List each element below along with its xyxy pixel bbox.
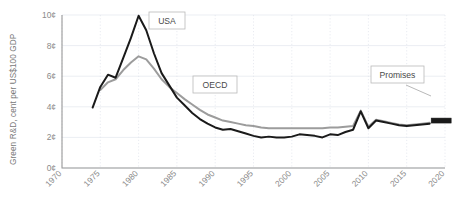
annotation-usa: USA <box>149 12 185 29</box>
xtick-label-2020: 2020 <box>426 168 446 188</box>
ytick-label-2: 2¢ <box>47 132 57 142</box>
xtick-label-2005: 2005 <box>311 168 331 188</box>
annotation-promises-leader <box>406 85 431 96</box>
xtick-label-1980: 1980 <box>120 168 140 188</box>
xtick-label-2000: 2000 <box>273 168 293 188</box>
xtick-label-1975: 1975 <box>81 168 101 188</box>
annotation-promises-label: Promises <box>380 70 416 80</box>
x-axis-tick-labels: 1970 1975 1980 1985 1990 1995 2000 2005 … <box>43 168 446 188</box>
chart-container: 0¢ 2¢ 4¢ 6¢ 8¢ 10¢ Green R&D, cent per U… <box>0 0 458 210</box>
ytick-label-6: 6¢ <box>47 71 57 81</box>
green-rd-line-chart: 0¢ 2¢ 4¢ 6¢ 8¢ 10¢ Green R&D, cent per U… <box>0 0 458 210</box>
ytick-label-4: 4¢ <box>47 102 57 112</box>
xtick-label-1990: 1990 <box>196 168 216 188</box>
annotation-oecd: OECD <box>193 76 237 93</box>
annotation-oecd-label: OECD <box>203 80 228 90</box>
y-axis-title: Green R&D, cent per US$100 GDP <box>9 33 18 165</box>
xtick-label-1985: 1985 <box>158 168 178 188</box>
promises-marker <box>431 118 451 123</box>
xtick-label-2010: 2010 <box>350 168 370 188</box>
xtick-label-1995: 1995 <box>235 168 255 188</box>
ytick-label-10: 10¢ <box>42 10 56 20</box>
grid-layer <box>62 15 445 168</box>
ytick-label-8: 8¢ <box>47 41 57 51</box>
y-axis-tick-labels: 0¢ 2¢ 4¢ 6¢ 8¢ 10¢ <box>42 10 56 173</box>
annotation-usa-label: USA <box>158 16 176 26</box>
annotation-promises: Promises <box>371 66 451 123</box>
xtick-label-2015: 2015 <box>388 168 408 188</box>
